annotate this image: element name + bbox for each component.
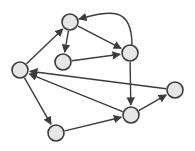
edge-left-to-bottom-left <box>25 78 52 125</box>
node-far-right <box>167 82 183 98</box>
edge-bottom-right-to-left <box>29 74 122 112</box>
edge-mid-to-upper-right <box>72 54 120 61</box>
node-bottom-right <box>123 107 139 123</box>
node-top <box>62 14 78 30</box>
edge-top-to-mid <box>65 31 69 52</box>
edge-far-right-to-left <box>30 71 166 89</box>
node-mid <box>55 54 71 70</box>
edges-layer <box>25 13 167 131</box>
node-left <box>12 62 28 78</box>
node-upper-right <box>122 45 138 61</box>
edge-bottom-left-to-bottom-right <box>65 117 122 131</box>
edge-top-to-upper-right <box>78 26 121 48</box>
node-bottom-left <box>48 125 64 141</box>
edge-bottom-right-to-far-right <box>139 95 167 111</box>
directed-graph <box>0 0 195 151</box>
